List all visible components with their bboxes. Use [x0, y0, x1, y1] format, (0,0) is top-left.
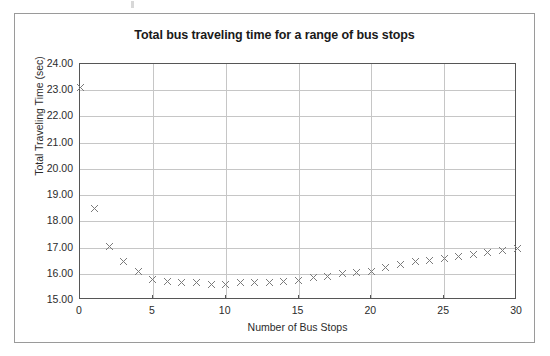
y-axis-tick-label: 19.00 [47, 188, 73, 200]
gridline-horizontal [80, 221, 515, 222]
y-axis-tick-label: 22.00 [47, 109, 73, 121]
x-axis-tick-marks [79, 285, 516, 299]
y-axis-tick-label: 16.00 [47, 267, 73, 279]
y-axis-tick-label: 23.00 [47, 83, 73, 95]
x-axis-tick-label: 15 [292, 304, 304, 316]
x-axis-tick-mark [298, 295, 299, 299]
gridline-horizontal [80, 143, 515, 144]
gridline-horizontal [80, 248, 515, 249]
gridline-vertical [153, 64, 154, 298]
data-point-marker [396, 260, 405, 269]
y-axis-tick-label: 21.00 [47, 136, 73, 148]
y-axis-tick-label: 17.00 [47, 241, 73, 253]
data-point-marker [454, 252, 463, 261]
x-axis-tick-label: 5 [149, 304, 155, 316]
x-axis-tick-mark [370, 295, 371, 299]
gridline-horizontal [80, 274, 515, 275]
data-point-marker [119, 257, 128, 266]
gridline-horizontal [80, 116, 515, 117]
gridline-horizontal [80, 195, 515, 196]
chart-title: Total bus traveling time for a range of … [15, 28, 534, 42]
x-axis-tick-label: 10 [219, 304, 231, 316]
data-point-marker [105, 242, 114, 251]
gridline-vertical [371, 64, 372, 298]
data-point-marker [90, 204, 99, 213]
chart-figure-frame: Total bus traveling time for a range of … [14, 13, 535, 343]
x-axis-tick-labels: 051015202530 [79, 304, 516, 320]
x-axis-tick-mark [443, 295, 444, 299]
gridline-vertical [444, 64, 445, 298]
y-axis-tick-labels: 15.0016.0017.0018.0019.0020.0021.0022.00… [23, 63, 73, 299]
y-axis-tick-label: 18.00 [47, 214, 73, 226]
data-point-marker [425, 256, 434, 265]
x-axis-tick-label: 20 [364, 304, 376, 316]
data-point-marker [352, 268, 361, 277]
data-point-marker [381, 263, 390, 272]
x-axis-tick-label: 0 [76, 304, 82, 316]
data-point-marker [513, 244, 522, 253]
gridline-horizontal [80, 90, 515, 91]
x-axis-tick-label: 25 [437, 304, 449, 316]
y-axis-tick-label: 24.00 [47, 57, 73, 69]
x-axis-title: Number of Bus Stops [79, 321, 516, 333]
data-point-marker [469, 250, 478, 259]
gridline-vertical [226, 64, 227, 298]
data-point-marker [411, 257, 420, 266]
y-axis-tick-label: 15.00 [47, 293, 73, 305]
y-axis-tick-label: 20.00 [47, 162, 73, 174]
scan-artifact [131, 1, 134, 8]
gridline-vertical [299, 64, 300, 298]
x-axis-tick-mark [152, 295, 153, 299]
x-axis-tick-mark [225, 295, 226, 299]
x-axis-tick-label: 30 [510, 304, 522, 316]
data-point-marker [483, 248, 492, 257]
plot-area [79, 63, 516, 299]
gridline-horizontal [80, 169, 515, 170]
